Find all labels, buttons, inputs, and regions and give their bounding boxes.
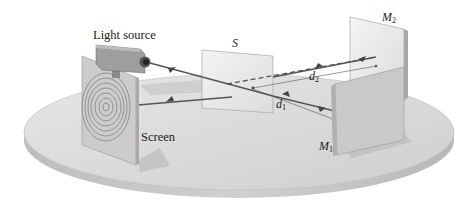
mirror-m1 <box>331 67 404 156</box>
label-splitter: S <box>232 37 238 49</box>
label-light-source: Light source <box>93 29 156 42</box>
label-d2: d2 <box>309 70 319 84</box>
label-mirror-m2: M2 <box>382 11 396 25</box>
interferometer-diagram: Light source S Screen M2 M1 d2 d1 <box>0 0 473 202</box>
label-mirror-m1: M1 <box>319 140 333 154</box>
label-screen: Screen <box>141 131 175 144</box>
label-d1: d1 <box>276 98 286 112</box>
diagram-canvas <box>0 0 473 202</box>
